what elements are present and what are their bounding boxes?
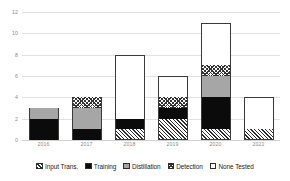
x-axis-tick-label: 2017	[72, 141, 102, 147]
bar-stack[interactable]	[201, 23, 231, 140]
bar-segment-input-trans[interactable]	[244, 129, 274, 140]
bar-segment-detection[interactable]	[72, 97, 102, 108]
bar-group[interactable]	[201, 12, 231, 140]
black-swatch	[85, 163, 92, 170]
bar-segment-training[interactable]	[29, 119, 59, 140]
bar-segment-detection[interactable]	[201, 65, 231, 76]
checker-swatch	[168, 163, 175, 170]
bar-segment-none-tested[interactable]	[158, 76, 188, 97]
x-axis-tick-label: 2019	[158, 141, 188, 147]
legend-item-label: Distillation	[132, 163, 161, 170]
legend-item[interactable]: None Tested	[210, 163, 254, 170]
x-axis-tick-label: 2020	[201, 141, 231, 147]
legend-item[interactable]: Input Trans.	[36, 163, 78, 170]
x-axis-tick-label: 2021	[244, 141, 274, 147]
legend-item[interactable]: Distillation	[123, 163, 160, 170]
bar-segment-none-tested[interactable]	[244, 97, 274, 129]
x-axis-tick-label: 2018	[115, 141, 145, 147]
y-axis-tick-label: 0	[15, 137, 18, 143]
chart-legend: Input Trans.TrainingDistillationDetectio…	[0, 158, 290, 174]
legend-item-label: Training	[94, 163, 116, 170]
y-axis-tick-label: 6	[15, 73, 18, 79]
gray-swatch	[123, 163, 130, 170]
white-swatch	[210, 163, 217, 170]
bar-stack[interactable]	[115, 55, 145, 140]
bar-segment-training[interactable]	[158, 108, 188, 119]
bar-stack[interactable]	[72, 97, 102, 140]
y-axis-tick-label: 4	[15, 94, 18, 100]
bar-group[interactable]	[115, 12, 145, 140]
y-axis-tick-label: 10	[12, 30, 18, 36]
bar-segment-detection[interactable]	[158, 97, 188, 108]
bar-segment-training[interactable]	[201, 97, 231, 129]
legend-item-label: Detection	[176, 163, 203, 170]
bar-segment-none-tested[interactable]	[115, 55, 145, 119]
stacked-bar-chart: 024681012 201620172018201920202021 Input…	[0, 0, 290, 181]
bar-segment-input-trans[interactable]	[158, 119, 188, 140]
bar-stack[interactable]	[244, 97, 274, 140]
bar-segment-distillation[interactable]	[72, 108, 102, 129]
legend-item-label: Input Trans.	[45, 163, 78, 170]
bar-segment-distillation[interactable]	[201, 76, 231, 97]
bar-group[interactable]	[244, 12, 274, 140]
bar-stack[interactable]	[158, 76, 188, 140]
bar-segment-input-trans[interactable]	[115, 129, 145, 140]
y-axis-tick-label: 8	[15, 52, 18, 58]
bar-segment-input-trans[interactable]	[201, 129, 231, 140]
legend-item[interactable]: Training	[85, 163, 116, 170]
legend-item[interactable]: Detection	[168, 163, 203, 170]
bar-segment-training[interactable]	[115, 119, 145, 130]
x-axis-tick-label: 2016	[29, 141, 59, 147]
bar-group[interactable]	[29, 12, 59, 140]
x-axis-tick-labels: 201620172018201920202021	[22, 141, 280, 153]
bar-segment-distillation[interactable]	[29, 108, 59, 119]
bar-group[interactable]	[158, 12, 188, 140]
bar-series-container	[22, 12, 280, 140]
hatch-swatch	[36, 163, 43, 170]
legend-item-label: None Tested	[218, 163, 253, 170]
y-axis-tick-label: 2	[15, 116, 18, 122]
bar-segment-none-tested[interactable]	[201, 23, 231, 66]
y-axis-tick-label: 12	[12, 9, 18, 15]
plot-area: 024681012	[22, 12, 280, 140]
bar-stack[interactable]	[29, 108, 59, 140]
bar-segment-training[interactable]	[72, 129, 102, 140]
bar-group[interactable]	[72, 12, 102, 140]
